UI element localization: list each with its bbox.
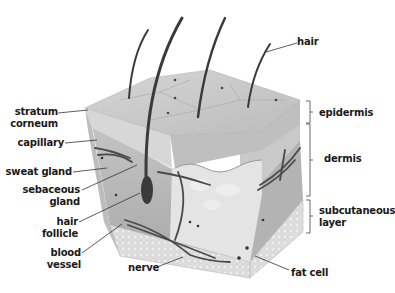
label-line: gland [10, 196, 80, 208]
label-dermis: dermis [324, 153, 361, 165]
label-line: subcutaneous [319, 205, 395, 217]
label-line: sweat gland [0, 166, 72, 178]
label-line: capillary [4, 137, 64, 149]
label-hair: hair [297, 36, 318, 48]
label-line: vessel [10, 259, 81, 271]
label-capillary: capillary [4, 137, 64, 149]
label-stratum-corneum: stratum corneum [4, 106, 58, 130]
label-line: sebaceous [10, 184, 80, 196]
label-epidermis: epidermis [319, 107, 373, 119]
label-sebaceous-gland: sebaceous gland [10, 184, 80, 208]
label-fat-cell: fat cell [291, 267, 328, 279]
label-nerve: nerve [128, 262, 159, 274]
label-line: corneum [4, 118, 58, 130]
label-line: follicle [10, 228, 78, 240]
label-line: nerve [128, 262, 159, 274]
label-blood-vessel: blood vessel [10, 247, 81, 271]
label-line: blood [10, 247, 81, 259]
layer-brackets [306, 101, 313, 233]
label-line: hair [10, 216, 78, 228]
follicle-shape [141, 176, 153, 204]
label-hair-follicle: hair follicle [10, 216, 78, 240]
label-line: fat cell [291, 267, 328, 279]
label-line: epidermis [319, 107, 373, 119]
label-line: stratum [4, 106, 58, 118]
label-sweat-gland: sweat gland [0, 166, 72, 178]
label-line: layer [319, 217, 395, 229]
label-subcutaneous-layer: subcutaneous layer [319, 205, 395, 229]
label-line: dermis [324, 153, 361, 165]
label-line: hair [297, 36, 318, 48]
